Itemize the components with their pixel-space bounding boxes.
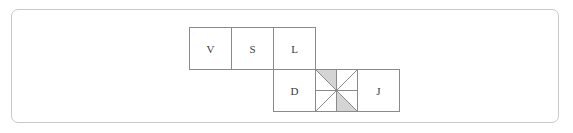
cell-j-label: J xyxy=(376,85,381,97)
cell-j: J xyxy=(358,70,400,112)
cell-pinwheel xyxy=(316,70,358,112)
top-row-group: V S L xyxy=(190,28,316,70)
cell-d: D xyxy=(274,70,316,112)
cell-v: V xyxy=(190,28,232,70)
cell-v-label: V xyxy=(207,43,215,55)
cell-d-label: D xyxy=(291,85,299,97)
diagram-canvas: V S L D xyxy=(0,0,573,133)
cell-s-label: S xyxy=(249,43,255,55)
cell-l: L xyxy=(274,28,316,70)
cell-s: S xyxy=(232,28,274,70)
bottom-row-group: D xyxy=(274,70,400,112)
polyomino-figure: V S L D xyxy=(189,27,401,113)
cell-l-label: L xyxy=(291,43,298,55)
